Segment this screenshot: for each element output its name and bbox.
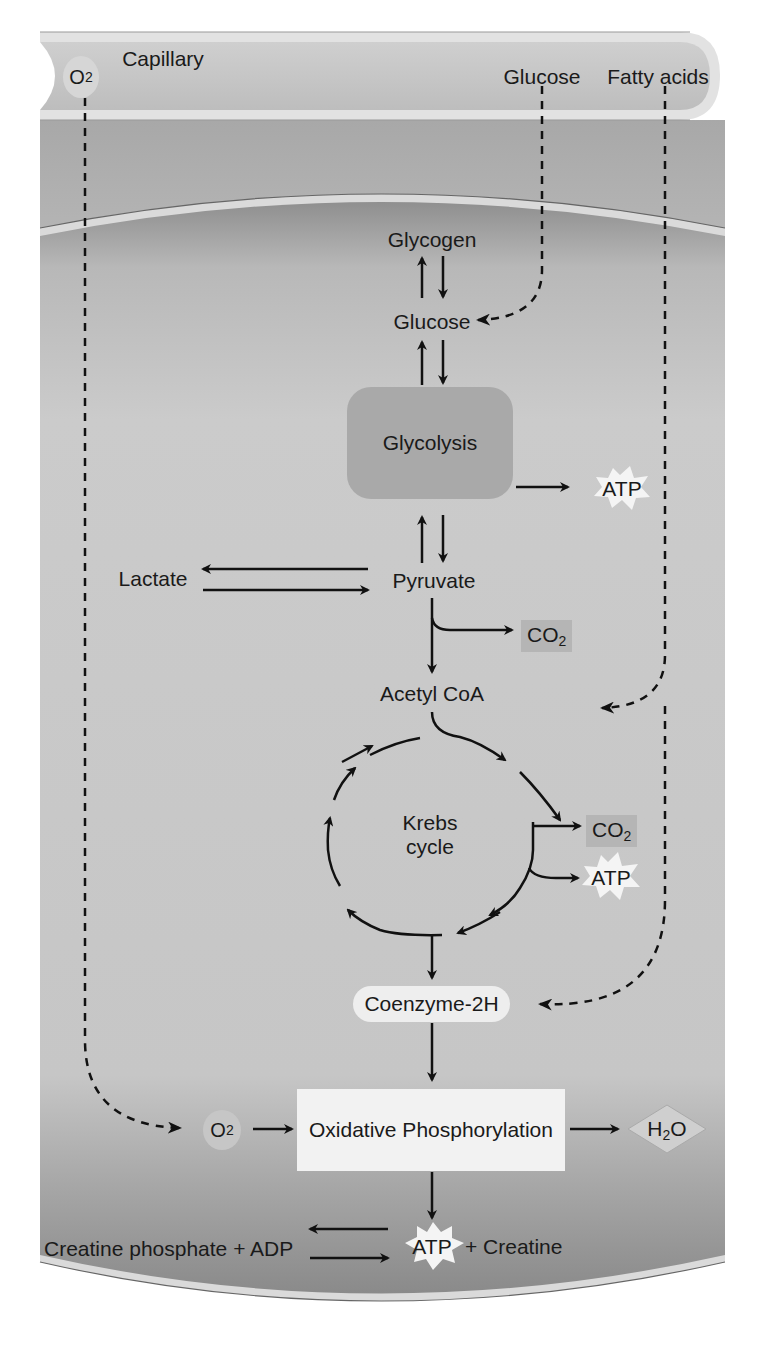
- creatine-phosphate-label: Creatine phosphate + ADP: [44, 1238, 293, 1259]
- glycolysis-label: Glycolysis: [383, 431, 478, 455]
- o2-subscript: 2: [85, 69, 93, 85]
- glycogen-label: Glycogen: [388, 229, 477, 250]
- o2-text: O: [69, 66, 85, 89]
- capillary-fatty-acids: Fatty acids: [607, 66, 709, 87]
- coenzyme-2h-pill: Coenzyme-2H: [353, 986, 510, 1022]
- capillary-glucose: Glucose: [503, 66, 580, 87]
- glycolysis-box: Glycolysis: [347, 387, 513, 499]
- o2-text: O: [210, 1119, 226, 1142]
- co2-text: CO: [592, 818, 624, 841]
- atp-glycolysis-label: ATP: [602, 478, 641, 499]
- glucose-label: Glucose: [393, 311, 470, 332]
- krebs-label-line1: Krebs: [403, 812, 458, 833]
- h2o-h: H: [647, 1117, 662, 1140]
- oxidative-phosphorylation-box: Oxidative Phosphorylation: [297, 1089, 565, 1171]
- co2-subscript: 2: [559, 633, 567, 649]
- lactate-label: Lactate: [119, 568, 188, 589]
- h2o-o: O: [670, 1117, 686, 1140]
- pyruvate-label: Pyruvate: [393, 570, 476, 591]
- h2o-label: H2O: [647, 1118, 686, 1142]
- capillary-o2: O2: [63, 56, 99, 98]
- muscle-metabolism-diagram: Capillary O2 Glucose Fatty acids Glycoge…: [0, 0, 760, 1349]
- co2-subscript: 2: [624, 828, 632, 844]
- krebs-label-line2: cycle: [406, 836, 454, 857]
- oxphos-label: Oxidative Phosphorylation: [309, 1118, 553, 1142]
- acetyl-coa-label: Acetyl CoA: [380, 683, 484, 704]
- h2o-subscript: 2: [663, 1127, 671, 1143]
- capillary-label: Capillary: [122, 48, 204, 69]
- co2-krebs-box: CO2: [586, 815, 637, 847]
- o2-subscript: 2: [226, 1122, 234, 1138]
- atp-final-label: ATP: [412, 1236, 451, 1257]
- atp-krebs-label: ATP: [591, 867, 630, 888]
- cell-o2: O2: [203, 1110, 241, 1150]
- coenzyme-label: Coenzyme-2H: [364, 992, 498, 1016]
- co2-pyruvate-box: CO2: [521, 620, 572, 652]
- co2-text: CO: [527, 623, 559, 646]
- creatine-label: + Creatine: [465, 1236, 562, 1257]
